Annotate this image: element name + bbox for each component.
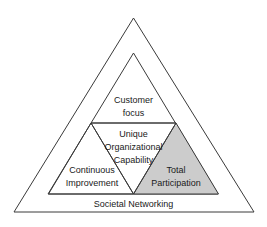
pyramid-svg-canvas: Customer focus Unique Organizational Cap… [0, 0, 267, 227]
total-participation-label-line2: Participation [151, 178, 201, 188]
total-participation-label-line1: Total [166, 165, 185, 175]
continuous-improvement-label-line2: Improvement [66, 178, 119, 188]
customer-focus-label-line1: Customer [114, 95, 153, 105]
continuous-improvement-label-line1: Continuous [69, 165, 115, 175]
customer-focus-label-line2: focus [123, 108, 145, 118]
unique-capability-label-line2: Organizational [104, 142, 162, 152]
unique-capability-label-line3: Capability [114, 155, 154, 165]
societal-networking-label: Societal Networking [94, 199, 174, 209]
unique-capability-label-line1: Unique [119, 129, 148, 139]
pyramid-diagram: Customer focus Unique Organizational Cap… [0, 0, 267, 227]
